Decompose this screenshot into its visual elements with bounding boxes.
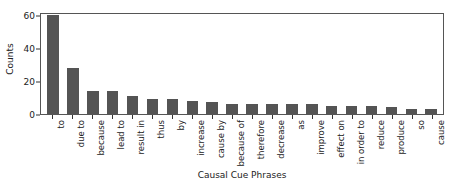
bar (266, 104, 278, 114)
bar-slot (162, 14, 182, 114)
bar (286, 104, 298, 114)
x-tick-mark (92, 115, 93, 119)
x-tick-mark (192, 115, 193, 119)
bar-slot (83, 14, 103, 114)
bar (406, 109, 418, 114)
x-tick-mark (132, 115, 133, 119)
bar (127, 96, 139, 114)
bar-slot (322, 14, 342, 114)
bar (167, 99, 179, 114)
x-label-slot: because (82, 120, 102, 168)
bar (147, 99, 159, 114)
bar-slot (242, 14, 262, 114)
x-label-slot: thus (142, 120, 162, 168)
bar (326, 106, 338, 114)
y-axis-title-text: Counts (5, 43, 15, 74)
y-tick-label: 0 (29, 110, 35, 120)
bar-slot (262, 14, 282, 114)
bar (187, 101, 199, 114)
x-tick-mark (332, 115, 333, 119)
bar-slot (43, 14, 63, 114)
x-label-slot: so (402, 120, 422, 168)
bar-slot (182, 14, 202, 114)
bar-slot (123, 14, 143, 114)
x-tick-mark (272, 115, 273, 119)
bar (206, 102, 218, 114)
bar (107, 91, 119, 114)
x-label-slot: reduce (362, 120, 382, 168)
bar (246, 104, 258, 114)
bar-slot (302, 14, 322, 114)
bar-slot (421, 14, 441, 114)
x-label-slot: to (42, 120, 62, 168)
x-tick-mark (412, 115, 413, 119)
x-tick-mark (392, 115, 393, 119)
plot-area (40, 13, 444, 115)
bar (67, 68, 79, 114)
bar-slot (401, 14, 421, 114)
x-axis-tick-labels: todue tobecauselead toresult inthusbyinc… (40, 120, 444, 168)
x-tick-mark (232, 115, 233, 119)
bar (306, 104, 318, 114)
bar-slot (342, 14, 362, 114)
bar (226, 104, 238, 114)
bar-slot (63, 14, 83, 114)
bar-slot (103, 14, 123, 114)
x-tick-mark (352, 115, 353, 119)
x-tick-mark (252, 115, 253, 119)
x-label-slot: because of (222, 120, 242, 168)
x-label-slot: by (162, 120, 182, 168)
bar-slot (362, 14, 382, 114)
x-tick-mark (432, 115, 433, 119)
x-label-slot: cause by (202, 120, 222, 168)
y-axis-title: Counts (2, 0, 18, 118)
x-label-slot: cause (422, 120, 442, 168)
x-tick-mark (52, 115, 53, 119)
bar-chart-figure: Counts 0204060 todue tobecauselead tores… (0, 0, 450, 190)
bar-slot (202, 14, 222, 114)
x-tick-label: cause (436, 120, 446, 145)
x-tick-mark (112, 115, 113, 119)
bar (87, 91, 99, 114)
bar (47, 15, 59, 114)
x-label-slot: effect on (322, 120, 342, 168)
x-label-slot: decrease (262, 120, 282, 168)
bar-slot (282, 14, 302, 114)
y-tick-label: 60 (24, 11, 35, 21)
x-label-slot: result in (122, 120, 142, 168)
bar-slot (381, 14, 401, 114)
bar-slot (143, 14, 163, 114)
x-tick-mark (292, 115, 293, 119)
x-label-slot: improve (302, 120, 322, 168)
x-tick-mark (152, 115, 153, 119)
y-tick-label: 40 (24, 44, 35, 54)
y-tick-label: 20 (24, 77, 35, 87)
bar (386, 107, 398, 114)
y-axis-tick-labels: 0204060 (18, 0, 40, 118)
bar-slot (222, 14, 242, 114)
x-tick-mark (72, 115, 73, 119)
bar (366, 106, 378, 114)
x-label-slot: in order to (342, 120, 362, 168)
x-label-slot: produce (382, 120, 402, 168)
bar (346, 106, 358, 114)
x-tick-mark (372, 115, 373, 119)
x-label-slot: therefore (242, 120, 262, 168)
bar-series (41, 14, 443, 114)
x-tick-mark (312, 115, 313, 119)
x-label-slot: due to (62, 120, 82, 168)
x-label-slot: lead to (102, 120, 122, 168)
x-tick-mark (212, 115, 213, 119)
x-label-slot: as (282, 120, 302, 168)
bar (425, 109, 437, 114)
x-label-slot: increase (182, 120, 202, 168)
x-tick-mark (172, 115, 173, 119)
x-axis-title: Causal Cue Phrases (40, 170, 444, 180)
